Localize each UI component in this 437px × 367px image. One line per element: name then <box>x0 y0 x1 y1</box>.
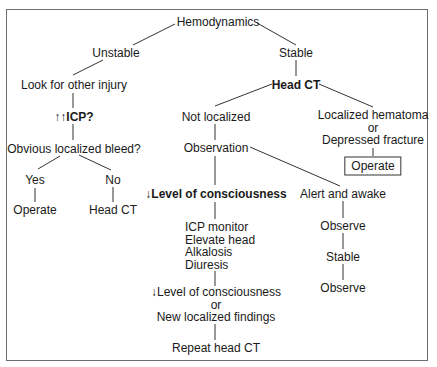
node-obvious-localized-bleed: Obvious localized bleed? <box>7 143 140 156</box>
node-operate-unstable: Operate <box>13 204 56 217</box>
node-operate-box: Operate <box>344 157 401 176</box>
node-stable: Stable <box>279 47 313 60</box>
node-yes: Yes <box>25 174 45 187</box>
node-alert-and-awake: Alert and awake <box>300 188 386 201</box>
node-repeat-head-ct: Repeat head CT <box>172 342 260 355</box>
node-look-for-other-injury: Look for other injury <box>21 79 127 92</box>
node-localized-hematoma: Localized hematoma or Depressed fracture <box>318 109 429 147</box>
localized-line-1: Localized hematoma <box>318 109 429 122</box>
node-observe-1: Observe <box>320 220 365 233</box>
node-no: No <box>105 174 120 187</box>
reassess-line-3: New localized findings <box>151 311 281 324</box>
node-reassess: ↓Level of consciousness or New localized… <box>151 286 281 324</box>
node-observation: Observation <box>184 142 249 155</box>
localized-line-3: Depressed fracture <box>318 134 429 147</box>
intervention-diuresis: Diuresis <box>185 259 255 272</box>
node-head-ct: Head CT <box>272 79 321 92</box>
intervention-icp-monitor: ICP monitor <box>185 221 255 234</box>
node-decreased-loc: ↓Level of consciousness <box>145 188 286 201</box>
node-increased-icp: ↑↑ICP? <box>54 111 93 124</box>
node-hemodynamics: Hemodynamics <box>177 16 260 29</box>
node-stable-2: Stable <box>326 251 360 264</box>
reassess-line-1: ↓Level of consciousness <box>151 286 281 299</box>
node-observe-2: Observe <box>320 282 365 295</box>
intervention-alkalosis: Alkalosis <box>185 246 255 259</box>
node-interventions: ICP monitor Elevate head Alkalosis Diure… <box>185 221 255 271</box>
node-unstable: Unstable <box>92 47 139 60</box>
node-head-ct-unstable: Head CT <box>89 204 137 217</box>
node-not-localized: Not localized <box>182 111 251 124</box>
